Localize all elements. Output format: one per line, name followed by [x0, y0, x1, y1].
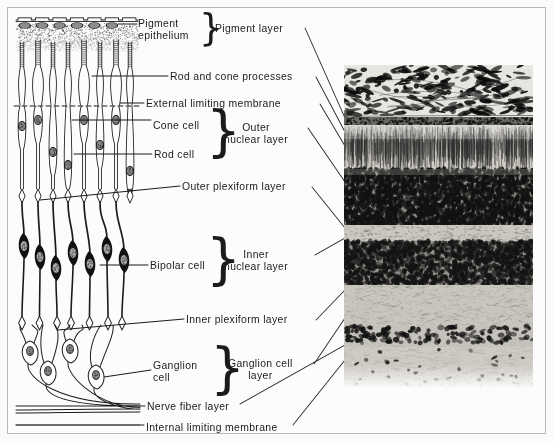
- label-rod-cell: Rod cell: [154, 149, 194, 161]
- label-ganglion-cell: Ganglion cell: [153, 360, 197, 383]
- brace-pigment-layer: }: [199, 14, 223, 40]
- label-inner-plexiform-layer: Inner plexiform layer: [186, 314, 287, 326]
- label-cone-cell: Cone cell: [153, 120, 199, 132]
- label-pigment-epithelium: Pigment epithelium: [138, 18, 189, 41]
- micrograph-image: [344, 65, 533, 388]
- retina-figure: Pigment epitheliumRod and cone processes…: [0, 0, 555, 443]
- brace-outer-nuclear-layer: }: [206, 112, 241, 150]
- brace-inner-nuclear-layer: }: [206, 240, 241, 278]
- label-rod-and-cone-processes: Rod and cone processes: [170, 71, 293, 83]
- label-bipolar-cell: Bipolar cell: [150, 260, 205, 272]
- brace-ganglion-cell-layer: }: [210, 349, 245, 387]
- label-internal-limiting-membrane: Internal limiting membrane: [146, 422, 278, 434]
- layer-label-pigment-layer: Pigment layer: [215, 23, 283, 35]
- retina-micrograph: [344, 65, 533, 388]
- label-outer-plexiform-layer: Outer plexiform layer: [182, 181, 286, 193]
- label-nerve-fiber-layer: Nerve fiber layer: [147, 401, 229, 413]
